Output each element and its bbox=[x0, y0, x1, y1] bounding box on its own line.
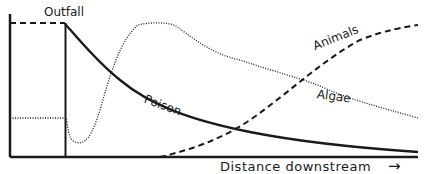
diagram-canvas bbox=[0, 0, 429, 174]
outfall-label: Outfall bbox=[44, 5, 84, 19]
animals-curve bbox=[10, 23, 418, 157]
arrow-right-icon: → bbox=[388, 157, 401, 174]
poison-curve bbox=[65, 24, 418, 152]
x-axis-label: Distance downstream bbox=[220, 159, 371, 174]
pollution-diagram: Outfall Poison Animals Algae Distance do… bbox=[0, 0, 429, 174]
